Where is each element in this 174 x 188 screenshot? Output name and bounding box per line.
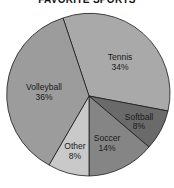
pie-chart: Tennis 34% Softball 8% Soccer 14% Other … bbox=[0, 0, 174, 188]
label-softball-pct: 8% bbox=[133, 121, 146, 131]
label-soccer-pct: 14% bbox=[98, 143, 115, 153]
label-soccer-name: Soccer bbox=[94, 133, 121, 143]
label-tennis-name: Tennis bbox=[108, 52, 133, 62]
label-volleyball-pct: 36% bbox=[35, 92, 52, 102]
label-tennis-pct: 34% bbox=[111, 62, 128, 72]
label-volleyball-name: Volleyball bbox=[26, 82, 62, 92]
label-other-name: Other bbox=[64, 141, 85, 151]
label-other-pct: 8% bbox=[69, 151, 82, 161]
